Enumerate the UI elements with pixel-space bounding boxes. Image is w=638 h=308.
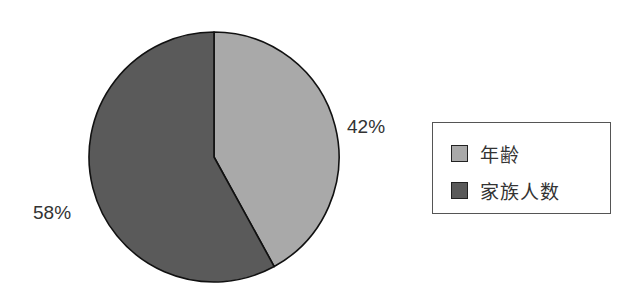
legend-label-age: 年齢 (480, 140, 520, 167)
legend: 年齢 家族人数 (432, 122, 611, 214)
slice-label-family-size: 58% (33, 202, 71, 224)
legend-item-age: 年齢 (451, 140, 520, 167)
legend-item-family-size: 家族人数 (451, 177, 560, 204)
legend-label-family-size: 家族人数 (480, 177, 560, 204)
pie-chart: 42% 58% 年齢 家族人数 (0, 0, 638, 308)
slice-label-age: 42% (347, 116, 385, 138)
legend-swatch-family-size (451, 182, 468, 199)
legend-swatch-age (451, 145, 468, 162)
